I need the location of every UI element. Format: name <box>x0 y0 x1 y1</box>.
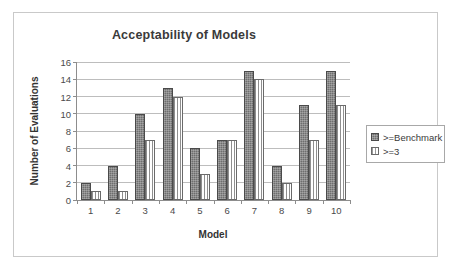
legend-item: >=3 <box>371 144 440 158</box>
x-axis-tick <box>350 200 351 204</box>
bar <box>91 191 101 200</box>
x-axis-tick <box>104 200 105 204</box>
plot-area: 0246810121416 12345678910 <box>76 62 350 201</box>
x-axis-tick-label: 2 <box>115 205 120 216</box>
x-axis-tick-label: 3 <box>143 205 148 216</box>
y-axis-tick-label: 6 <box>66 143 71 154</box>
bar <box>108 166 118 201</box>
x-axis-tick-label: 7 <box>252 205 257 216</box>
legend-label: >=Benchmark <box>383 132 442 143</box>
y-axis-tick <box>73 62 77 63</box>
x-axis-tick <box>132 200 133 204</box>
x-axis-tick <box>159 200 160 204</box>
bar <box>163 88 173 200</box>
y-axis-tick <box>73 165 77 166</box>
bar <box>326 71 336 200</box>
y-axis-tick-label: 2 <box>66 177 71 188</box>
chart-legend: >=Benchmark >=3 <box>366 125 445 163</box>
x-axis-tick <box>77 200 78 204</box>
y-axis-tick-label: 4 <box>66 160 71 171</box>
bar <box>135 114 145 200</box>
gridline <box>77 113 350 114</box>
y-axis-title: Number of Evaluations <box>29 77 40 186</box>
x-axis-tick-label: 8 <box>279 205 284 216</box>
bar <box>81 183 91 200</box>
gridline <box>77 79 350 80</box>
bar <box>244 71 254 200</box>
bar <box>309 140 319 200</box>
y-axis-tick <box>73 113 77 114</box>
x-axis-tick-label: 4 <box>170 205 175 216</box>
legend-item: >=Benchmark <box>371 130 440 144</box>
y-axis-tick-label: 0 <box>66 195 71 206</box>
bar <box>282 183 292 200</box>
bar <box>227 140 237 200</box>
x-axis-tick <box>323 200 324 204</box>
x-axis-tick-label: 6 <box>224 205 229 216</box>
bar <box>272 166 282 201</box>
chart-title: Acceptability of Models <box>14 28 354 42</box>
bar <box>118 191 128 200</box>
legend-label: >=3 <box>383 146 399 157</box>
x-axis-tick <box>186 200 187 204</box>
gridline <box>77 131 350 132</box>
gridline <box>77 62 350 63</box>
x-axis-tick <box>214 200 215 204</box>
bar <box>145 140 155 200</box>
y-axis-tick-label: 14 <box>60 74 71 85</box>
chart-frame: Acceptability of Models Number of Evalua… <box>13 12 438 257</box>
bar <box>200 174 210 200</box>
x-axis-tick <box>295 200 296 204</box>
bar <box>190 148 200 200</box>
x-axis-tick-label: 1 <box>88 205 93 216</box>
chart-figure: Acceptability of Models Number of Evalua… <box>0 0 449 272</box>
x-axis-tick <box>268 200 269 204</box>
y-axis-tick-label: 16 <box>60 57 71 68</box>
x-axis-tick-label: 5 <box>197 205 202 216</box>
y-axis-tick-label: 12 <box>60 91 71 102</box>
y-axis-tick <box>73 96 77 97</box>
y-axis-tick <box>73 182 77 183</box>
y-axis-tick-label: 10 <box>60 108 71 119</box>
bar <box>217 140 227 200</box>
x-axis-tick <box>241 200 242 204</box>
legend-swatch-three-icon <box>371 147 379 155</box>
bar <box>336 105 346 200</box>
x-axis-tick-label: 10 <box>331 205 342 216</box>
y-axis-tick-label: 8 <box>66 126 71 137</box>
legend-swatch-benchmark-icon <box>371 133 379 141</box>
gridline <box>77 96 350 97</box>
y-axis-tick <box>73 148 77 149</box>
y-axis-tick <box>73 131 77 132</box>
x-axis-title: Model <box>76 229 350 240</box>
bar <box>299 105 309 200</box>
bar <box>173 97 183 201</box>
y-axis-tick <box>73 79 77 80</box>
bar <box>254 79 264 200</box>
x-axis-tick-label: 9 <box>306 205 311 216</box>
